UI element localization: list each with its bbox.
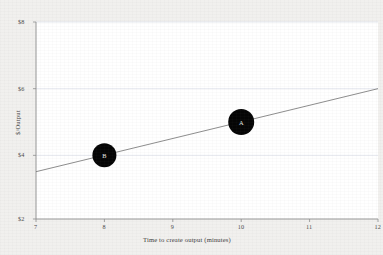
y-tick-label-6: $6 [18,85,24,92]
x-tick-label-7: 7 [34,223,37,230]
x-tick-label-8: 8 [102,223,105,230]
plot-canvas [0,0,383,255]
x-tick-label-11: 11 [306,223,312,230]
y-axis-title: $/Output [14,110,21,135]
x-tick-label-9: 9 [171,223,174,230]
plot-area-background [36,22,378,219]
x-axis-title: Time to create output (minutes) [143,236,231,243]
x-tick-label-12: 12 [375,223,381,230]
y-tick-label-4: $4 [18,151,24,158]
x-tick-label-10: 10 [238,223,244,230]
bubble-label-a: A [234,119,248,126]
y-tick-label-2: $2 [18,215,24,222]
bubble-chart: A B $8 $6 $4 $2 7 8 9 10 11 12 Time to c… [0,0,383,255]
bubble-label-b: B [97,152,111,159]
y-tick-label-8: $8 [18,18,24,25]
